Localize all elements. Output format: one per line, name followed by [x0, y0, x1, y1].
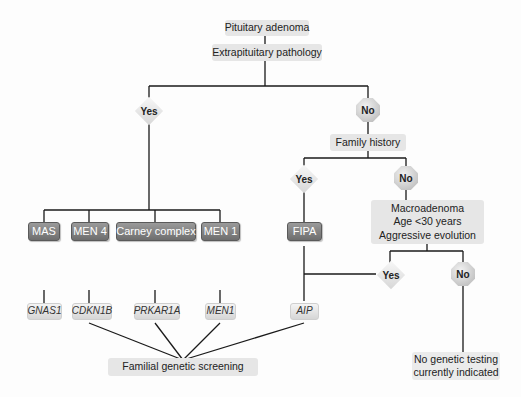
- yes-decision-2: Yes: [287, 168, 321, 190]
- family-history-node: Family history: [330, 134, 406, 151]
- gene-gnas1: GNAS1: [27, 303, 62, 320]
- extrapituitary-node: Extrapituitary pathology: [212, 44, 322, 61]
- gene-cdkn1b: CDKN1B: [72, 303, 112, 320]
- no-decision-3: No: [451, 262, 475, 286]
- gene-aip: AIP: [290, 303, 319, 320]
- syndrome-carney-complex: Carney complex: [116, 222, 196, 241]
- syndrome-men4: MEN 4: [71, 222, 109, 241]
- criteria-line-2: Age <30 years: [393, 215, 461, 228]
- syndrome-fipa: FIPA: [287, 222, 322, 241]
- criteria-line-1: Macroadenoma: [391, 202, 464, 215]
- yes-decision-3: Yes: [374, 264, 408, 286]
- syndrome-men1: MEN 1: [201, 222, 240, 241]
- root-node: Pituitary adenoma: [225, 20, 309, 36]
- no-testing-line-1: No genetic testing: [414, 353, 498, 366]
- no-decision-2: No: [394, 166, 418, 190]
- no-testing-line-2: currently indicated: [413, 366, 498, 379]
- no-testing-node: No genetic testing currently indicated: [412, 352, 500, 380]
- yes-decision-1: Yes: [132, 100, 166, 122]
- macroadenoma-criteria-node: Macroadenoma Age <30 years Aggressive ev…: [371, 200, 484, 244]
- syndrome-mas: MAS: [28, 222, 60, 241]
- familial-screening-node: Familial genetic screening: [108, 358, 258, 376]
- gene-men1: MEN1: [205, 303, 236, 320]
- no-decision-1: No: [356, 98, 380, 122]
- gene-prkar1a: PRKAR1A: [134, 303, 180, 320]
- criteria-line-3: Aggressive evolution: [379, 229, 476, 242]
- flowchart: Pituitary adenoma Extrapituitary patholo…: [0, 0, 521, 397]
